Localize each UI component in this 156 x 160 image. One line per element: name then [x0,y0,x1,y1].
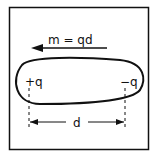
positive-charge-label: +q [25,75,43,89]
negative-charge-label: −q [120,75,138,89]
distance-label: d [73,116,81,130]
dipole-diagram: m = qd +q −q d [0,0,156,160]
moment-label: m = qd [48,33,93,47]
